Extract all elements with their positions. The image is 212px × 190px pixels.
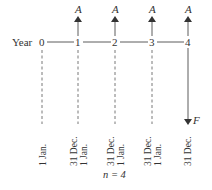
date-label-1-bottom: 1 Jan. (79, 144, 89, 166)
date-label-2-bottom: 1 Jan. (116, 144, 126, 166)
tick-2: 2 (112, 36, 118, 48)
payment-label-1: A (74, 3, 82, 15)
tick-0: 0 (39, 36, 45, 48)
tick-1: 1 (75, 36, 81, 48)
cash-flow-diagram: Year 0 1 2 3 4 A A A A F 1 Jan. 31 Dec. … (0, 0, 212, 190)
date-label-3-bottom: 1 Jan. (153, 144, 163, 166)
date-label-2-top: 31 Dec. (106, 136, 116, 166)
tick-4: 4 (185, 36, 191, 48)
payment-label-2: A (111, 3, 119, 15)
tick-3: 3 (149, 36, 155, 48)
payment-label-4: A (184, 3, 192, 15)
caption: n = 4 (103, 169, 127, 180)
date-label-1-top: 31 Dec. (69, 136, 79, 166)
payment-arrows (78, 19, 188, 36)
date-label-3-top: 31 Dec. (143, 136, 153, 166)
payment-label-3: A (148, 3, 156, 15)
date-label-4-top: 31 Dec. (183, 136, 193, 166)
dashed-guides (42, 50, 152, 124)
future-value-label: F (192, 114, 200, 126)
year-label: Year (12, 36, 33, 48)
date-label-0-top: 1 Jan. (38, 144, 48, 166)
